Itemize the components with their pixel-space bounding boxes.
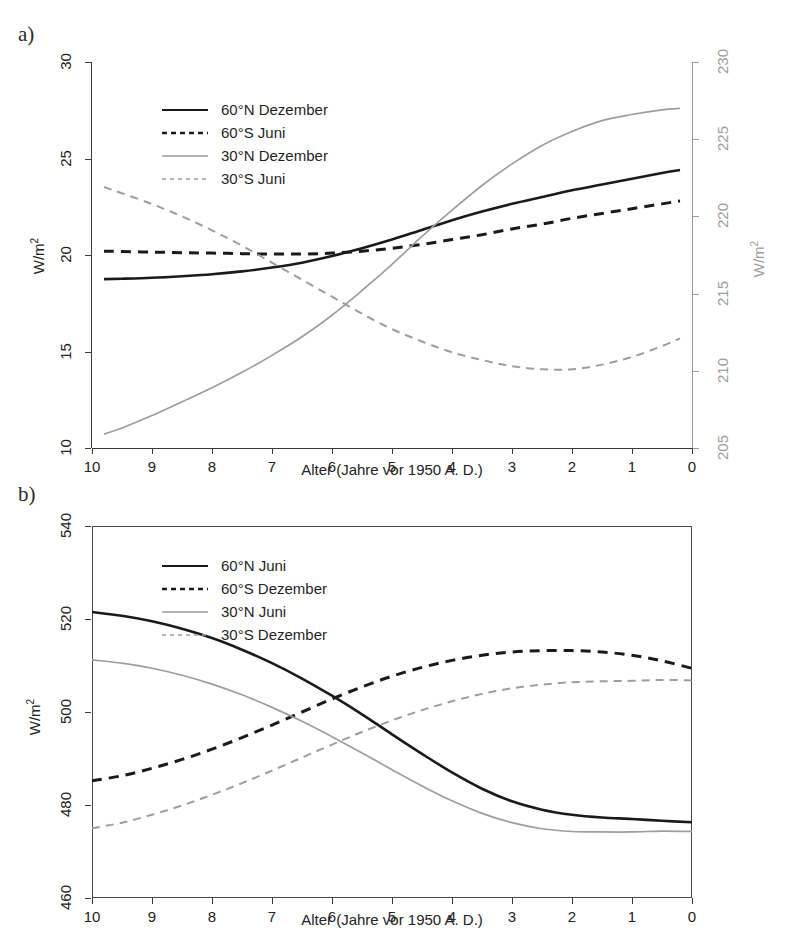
y-tick [85, 159, 91, 160]
y-tick [85, 619, 91, 620]
legend-item: 60°N Dezember [162, 98, 328, 121]
x-tick [152, 448, 153, 454]
x-tick [392, 448, 393, 454]
legend-line-swatch [162, 104, 208, 116]
y-tick-label: 25 [57, 143, 74, 173]
panel-b-label: b) [18, 482, 36, 507]
y-tick-label: 480 [57, 790, 74, 820]
legend-item: 60°S Dezember [162, 577, 327, 600]
x-tick [632, 448, 633, 454]
y-tick-secondary [693, 62, 699, 63]
legend-item: 60°N Juni [162, 554, 327, 577]
y-tick-secondary [693, 371, 699, 372]
y-tick-label-secondary: 215 [714, 275, 731, 311]
series-line [104, 187, 680, 370]
x-tick [332, 448, 333, 454]
y-tick-secondary [693, 448, 699, 449]
x-tick [512, 448, 513, 454]
x-tick [452, 898, 453, 904]
legend-label: 30°N Juni [221, 604, 286, 619]
legend-label: 60°N Dezember [221, 102, 328, 117]
legend-item: 30°N Juni [162, 600, 327, 623]
y-tick-label-secondary: 225 [714, 121, 731, 157]
legend-label: 30°S Juni [221, 171, 285, 186]
legend-line-swatch [162, 606, 208, 618]
y-tick-label: 540 [57, 511, 74, 541]
x-tick [272, 898, 273, 904]
x-tick [332, 898, 333, 904]
series-line [92, 660, 692, 832]
figure-insolation: a) 1098765432103025201510230225220215210… [0, 0, 787, 946]
x-tick [212, 898, 213, 904]
legend-item: 30°S Dezember [162, 623, 327, 646]
panel-b-xlabel: Alter (Jahre vor 1950 A. D.) [92, 911, 692, 928]
legend-line-swatch [162, 150, 208, 162]
panel-a-ylabel-left: W/m2 [29, 226, 47, 286]
series-line [104, 201, 680, 254]
x-tick [632, 898, 633, 904]
y-tick-label: 15 [57, 336, 74, 366]
y-tick-label: 30 [57, 47, 74, 77]
x-tick [512, 898, 513, 904]
panel-a-right-axis-line [692, 62, 693, 448]
x-tick [452, 448, 453, 454]
y-tick-secondary [693, 294, 699, 295]
legend-line-swatch [162, 127, 208, 139]
x-tick [572, 448, 573, 454]
legend-line-swatch [162, 583, 208, 595]
y-tick-label: 500 [57, 697, 74, 727]
y-tick-label-secondary: 230 [714, 44, 731, 80]
legend-label: 60°S Juni [221, 125, 285, 140]
legend-label: 60°N Juni [221, 558, 286, 573]
series-line [92, 650, 692, 780]
x-tick [92, 898, 93, 904]
y-tick-label-secondary: 205 [714, 430, 731, 466]
legend-label: 30°N Dezember [221, 148, 328, 163]
series-line [92, 680, 692, 828]
panel-a: a) 1098765432103025201510230225220215210… [0, 0, 787, 480]
y-tick [85, 448, 91, 449]
y-tick-label-secondary: 210 [714, 352, 731, 388]
y-tick-label: 10 [57, 433, 74, 463]
legend-line-swatch [162, 560, 208, 572]
y-tick-label: 460 [57, 883, 74, 913]
y-tick [85, 352, 91, 353]
y-tick [85, 712, 91, 713]
x-tick [92, 448, 93, 454]
y-tick [85, 62, 91, 63]
legend-item: 30°N Dezember [162, 144, 328, 167]
panel-a-legend: 60°N Dezember60°S Juni30°N Dezember30°S … [162, 98, 328, 190]
legend-item: 30°S Juni [162, 167, 328, 190]
x-tick [272, 448, 273, 454]
panel-b-ylabel-left: W/m2 [25, 687, 43, 747]
x-tick [212, 448, 213, 454]
y-tick-label: 20 [57, 240, 74, 270]
panel-b-legend: 60°N Juni60°S Dezember30°N Juni30°S Deze… [162, 554, 327, 646]
x-tick [392, 898, 393, 904]
x-tick [692, 898, 693, 904]
y-tick [85, 898, 91, 899]
panel-a-label: a) [18, 22, 34, 47]
panel-a-ylabel-right: W/m2 [749, 229, 767, 289]
y-tick [85, 526, 91, 527]
x-tick [572, 898, 573, 904]
x-tick [152, 898, 153, 904]
y-tick [85, 255, 91, 256]
y-tick-label-secondary: 220 [714, 198, 731, 234]
y-tick [85, 805, 91, 806]
panel-b: b) 109876543210540520500480460 60°N Juni… [0, 470, 787, 946]
y-tick-label: 520 [57, 604, 74, 634]
legend-label: 30°S Dezember [221, 627, 327, 642]
y-tick-secondary [693, 216, 699, 217]
legend-line-swatch [162, 629, 208, 641]
y-tick-secondary [693, 139, 699, 140]
legend-line-swatch [162, 173, 208, 185]
legend-label: 60°S Dezember [221, 581, 327, 596]
legend-item: 60°S Juni [162, 121, 328, 144]
